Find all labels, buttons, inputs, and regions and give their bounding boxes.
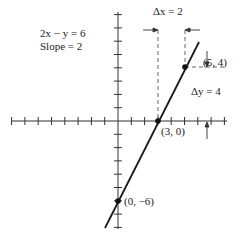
point-3-0: [155, 118, 161, 124]
point-5-4: [182, 64, 188, 70]
slope-label: Slope = 2: [40, 40, 82, 52]
point-label-3-0: (3, 0): [161, 125, 185, 137]
equation-label: 2x − y = 6: [40, 27, 85, 39]
point-0-neg6: [115, 198, 121, 204]
delta-x-arrows: [143, 28, 200, 32]
delta-y-label: Δy = 4: [191, 85, 221, 97]
point-label-0-neg6: (0, −6): [124, 195, 154, 207]
point-label-5-4: (5, 4): [203, 56, 227, 68]
delta-x-label: Δx = 2: [153, 5, 183, 17]
line-graph: [0, 0, 237, 240]
